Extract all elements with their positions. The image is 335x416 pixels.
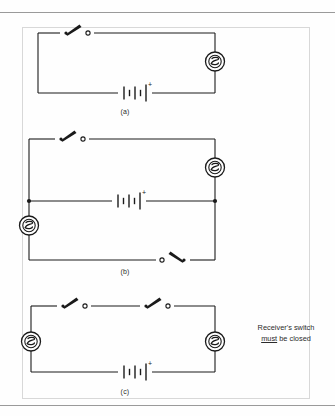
circuit-b-switch-top[interactable] (59, 131, 85, 142)
note-emphasis: must (261, 334, 277, 343)
circuit-c-switch-left[interactable] (61, 298, 87, 309)
note-line-1: Receiver's switch (258, 323, 315, 332)
circuit-b: + (20, 131, 225, 263)
circuit-c-buzzer-left (22, 332, 41, 351)
receiver-switch-note: Receiver's switch must be closed (238, 322, 334, 344)
circuit-a-battery-polarity: + (148, 81, 152, 88)
circuit-b-buzzer-left (20, 216, 39, 235)
figure-page: + (0, 0, 335, 416)
circuit-a-buzzer (206, 52, 225, 71)
note-line-2-rest: be closed (277, 334, 311, 343)
circuit-b-battery-polarity: + (142, 189, 146, 196)
circuit-b-buzzer-right (206, 158, 225, 177)
circuit-c-buzzer-right (206, 332, 225, 351)
circuit-a: + (38, 25, 225, 102)
circuit-c: + (22, 298, 225, 381)
circuit-b-switch-bottom[interactable] (160, 252, 186, 263)
circuit-c-switch-right[interactable] (144, 298, 170, 309)
circuit-b-junction-left (27, 199, 31, 203)
circuit-c-battery-polarity: + (148, 360, 152, 367)
circuit-b-junction-right (213, 199, 217, 203)
circuit-diagram-canvas: + (0, 0, 335, 416)
caption-a: (a) (105, 108, 145, 115)
caption-b: (b) (105, 268, 145, 275)
circuit-a-wires (38, 33, 215, 93)
circuit-c-battery (124, 364, 146, 381)
circuit-a-switch[interactable] (64, 25, 90, 36)
caption-c: (c) (105, 388, 145, 395)
circuit-c-wires (31, 306, 215, 372)
circuit-b-wires (29, 139, 215, 260)
circuit-a-battery (124, 85, 146, 102)
circuit-b-battery (118, 193, 140, 210)
